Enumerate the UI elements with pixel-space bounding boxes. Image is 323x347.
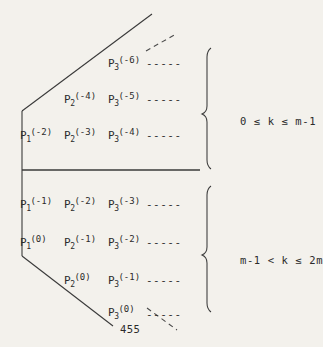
upper-range-condition: 0 ≤ k ≤ m-1 <box>240 116 316 127</box>
row-continuation-dashes: ----- <box>146 130 182 141</box>
polynomial-term: P3(-6) <box>108 56 140 72</box>
polynomial-term: P1(-2) <box>20 128 52 144</box>
term-superscript: (0) <box>30 234 46 244</box>
polynomial-term: P3(-4) <box>108 128 140 144</box>
row-continuation-dashes: ----- <box>146 237 182 248</box>
term-superscript: (-4) <box>74 91 96 101</box>
polynomial-term: P2(-1) <box>64 235 96 251</box>
page-number: 455 <box>120 324 140 335</box>
term-superscript: (-2) <box>118 234 140 244</box>
row-continuation-dashes: ----- <box>146 94 182 105</box>
upper-dashed-continuation <box>146 34 176 51</box>
term-superscript: (-2) <box>30 127 52 137</box>
term-superscript: (-3) <box>74 127 96 137</box>
term-superscript: (-1) <box>30 196 52 206</box>
polynomial-term: P3(-2) <box>108 235 140 251</box>
term-superscript: (-5) <box>118 91 140 101</box>
polynomial-term: P1(-1) <box>20 197 52 213</box>
term-superscript: (0) <box>74 272 90 282</box>
row-continuation-dashes: ----- <box>146 199 182 210</box>
term-superscript: (-2) <box>74 196 96 206</box>
upper-brace <box>202 48 211 169</box>
polynomial-term: P3(0) <box>108 305 135 321</box>
lower-range-condition: m-1 < k ≤ 2m <box>240 255 323 266</box>
polynomial-term: P2(-3) <box>64 128 96 144</box>
term-superscript: (-4) <box>118 127 140 137</box>
polynomial-term: P3(-5) <box>108 92 140 108</box>
polynomial-term: P2(0) <box>64 273 91 289</box>
polynomial-term: P3(-3) <box>108 197 140 213</box>
polynomial-term: P3(-1) <box>108 273 140 289</box>
row-continuation-dashes: ----- <box>146 309 182 320</box>
term-superscript: (-6) <box>118 55 140 65</box>
lower-brace <box>202 186 211 312</box>
term-superscript: (-3) <box>118 196 140 206</box>
polynomial-term: P2(-4) <box>64 92 96 108</box>
polynomial-term: P1(0) <box>20 235 47 251</box>
term-superscript: (-1) <box>118 272 140 282</box>
term-superscript: (-1) <box>74 234 96 244</box>
row-continuation-dashes: ----- <box>146 58 182 69</box>
row-continuation-dashes: ----- <box>146 275 182 286</box>
lower-diagonal-boundary <box>22 256 113 326</box>
polynomial-term: P2(-2) <box>64 197 96 213</box>
term-superscript: (0) <box>118 304 134 314</box>
